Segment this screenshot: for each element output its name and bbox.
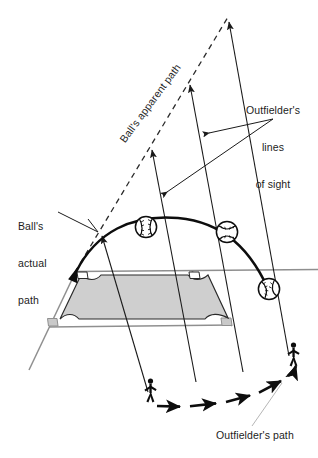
outfielders-path-seg-4 xyxy=(259,381,281,393)
base-marker-right xyxy=(221,318,232,326)
label-outfielders-sight-line1: Outfielder's xyxy=(246,104,300,116)
diagram-canvas: Outfielder's lines of sight Ball's actua… xyxy=(0,0,318,458)
label-balls-actual-line2: actual xyxy=(18,257,47,269)
baseball-3 xyxy=(258,278,279,299)
label-outfielders-sight-line2: lines xyxy=(246,141,300,153)
leader-line-actual-path xyxy=(58,212,98,232)
label-outfielders-path: Outfielder's path xyxy=(216,429,294,441)
label-balls-actual-line1: Ball's xyxy=(18,220,47,232)
line-of-sight-2 xyxy=(152,150,196,382)
baseball-optics-diagram xyxy=(0,0,318,458)
outfielders-path-seg-3 xyxy=(226,396,250,402)
outfielders-path-group xyxy=(157,366,296,407)
label-outfielders-lines-of-sight: Outfielder's lines of sight xyxy=(246,80,300,214)
outfield-front-line xyxy=(49,325,232,327)
outfielders-path-seg-2 xyxy=(190,403,216,406)
infield-group xyxy=(60,272,228,319)
outfielder-start-figure xyxy=(144,378,156,402)
baseball-1 xyxy=(135,216,156,238)
label-outfielders-sight-line3: of sight xyxy=(246,178,300,190)
outfielder-end-figure xyxy=(287,342,299,366)
infield-shaded-area xyxy=(60,275,228,319)
outfielders-path-seg-5 xyxy=(288,366,296,376)
label-balls-actual-path: Ball's actual path xyxy=(18,196,47,330)
outfielders-path-seg-1 xyxy=(157,406,180,407)
label-balls-actual-line3: path xyxy=(18,294,47,306)
infield-base-second xyxy=(189,272,200,279)
base-marker-left xyxy=(48,319,59,327)
infield-base-home xyxy=(77,272,88,279)
baseball-2 xyxy=(216,221,237,242)
